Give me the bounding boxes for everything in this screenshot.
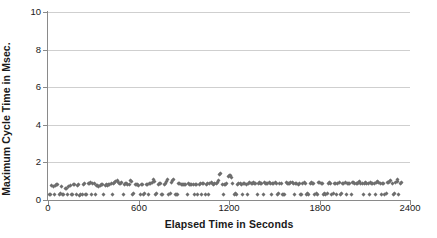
data-point (152, 179, 156, 183)
data-point (132, 192, 136, 196)
x-tick-label-600: 600 (119, 203, 159, 213)
data-point (300, 192, 304, 196)
data-point (231, 181, 235, 185)
data-point (279, 181, 283, 185)
data-point (234, 192, 238, 196)
y-tick-mark-0 (43, 200, 47, 201)
y-tick-mark-10 (43, 12, 47, 13)
data-point (146, 192, 150, 196)
y-tick-mark-6 (43, 87, 47, 88)
data-point (110, 192, 114, 196)
data-point (207, 192, 211, 196)
gridline-y-4 (48, 125, 410, 126)
scatter-chart: Maximum Cycle Time in Msec. Elapsed Time… (0, 0, 437, 238)
x-tick-label-1800: 1800 (300, 203, 340, 213)
data-point (225, 181, 229, 185)
y-tick-mark-8 (43, 50, 47, 51)
data-point (269, 192, 273, 196)
data-point (303, 181, 307, 185)
data-point (240, 192, 244, 196)
data-point (397, 192, 401, 196)
y-tick-mark-4 (43, 125, 47, 126)
x-tick-label-0: 0 (28, 203, 68, 213)
data-point (344, 192, 348, 196)
data-point (219, 172, 223, 176)
data-point (121, 192, 125, 196)
y-tick-label-8: 8 (0, 45, 41, 55)
data-point (175, 192, 179, 196)
data-point (367, 192, 371, 196)
data-point (161, 193, 165, 197)
data-point (283, 192, 287, 196)
data-point (230, 175, 234, 179)
gridline-y-10 (48, 12, 410, 13)
y-tick-label-6: 6 (0, 82, 41, 92)
x-axis-title: Elapsed Time in Seconds (48, 218, 410, 230)
data-point (315, 192, 319, 196)
gridline-y-6 (48, 87, 410, 88)
data-point (292, 192, 296, 196)
data-point (261, 192, 265, 196)
data-point (52, 192, 56, 196)
y-tick-label-4: 4 (0, 120, 41, 130)
data-point (102, 192, 106, 196)
data-point (307, 192, 311, 196)
data-point (221, 192, 225, 196)
data-point (255, 192, 259, 196)
y-tick-label-2: 2 (0, 157, 41, 167)
x-tick-label-2400: 2400 (390, 203, 430, 213)
gridline-y-8 (48, 50, 410, 51)
data-point (216, 178, 220, 182)
data-point (172, 177, 176, 181)
x-tick-label-1200: 1200 (209, 203, 249, 213)
data-point (373, 192, 377, 196)
data-point (245, 192, 249, 196)
plot-area (48, 12, 410, 200)
gridline-y-2 (48, 162, 410, 163)
data-point (185, 192, 189, 196)
data-point (312, 181, 316, 185)
y-tick-mark-2 (43, 162, 47, 163)
data-point (349, 192, 353, 196)
data-point (129, 179, 133, 183)
data-point (361, 192, 365, 196)
data-point (93, 192, 97, 196)
y-tick-label-10: 10 (0, 7, 41, 17)
